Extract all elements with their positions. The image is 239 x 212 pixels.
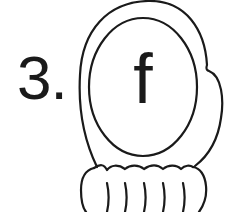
item-number: 3. (17, 47, 67, 109)
cuff-rib-3 (144, 183, 146, 212)
cuff-rib-2 (125, 183, 127, 212)
cuff-rib-5 (183, 183, 185, 212)
worksheet-item: 3. f (0, 0, 239, 212)
cuff-scallop (94, 165, 193, 170)
cuff-rib-4 (163, 183, 165, 212)
cuff-rib-1 (107, 183, 109, 212)
mitten-cuff (81, 167, 206, 212)
letter-label: f (120, 44, 166, 114)
